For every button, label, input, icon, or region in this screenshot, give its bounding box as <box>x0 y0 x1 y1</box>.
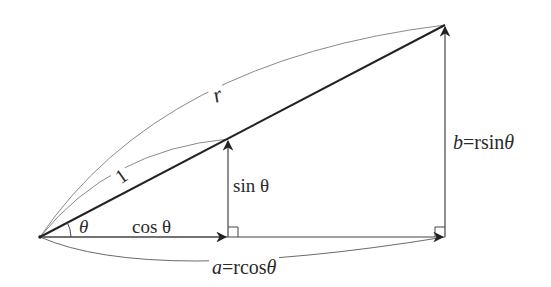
right-angle-small <box>228 227 238 237</box>
right-angle-large <box>435 227 445 237</box>
label-a-var: a <box>212 256 222 278</box>
label-b-var: b <box>453 131 463 153</box>
label-sin: sin θ <box>233 176 269 195</box>
origin-point <box>38 235 42 239</box>
label-b-expr: =rsin <box>463 131 504 153</box>
label-b: b=rsinθ <box>453 132 514 152</box>
label-a-theta: θ <box>267 256 277 278</box>
label-a-expr: =rcos <box>222 256 267 278</box>
label-a: a=rcosθ <box>209 257 279 277</box>
hypotenuse-r <box>40 25 445 237</box>
label-cos: cos θ <box>132 217 171 236</box>
theta-arc <box>67 222 71 237</box>
label-theta: θ <box>79 217 88 236</box>
label-b-theta: θ <box>504 131 514 153</box>
